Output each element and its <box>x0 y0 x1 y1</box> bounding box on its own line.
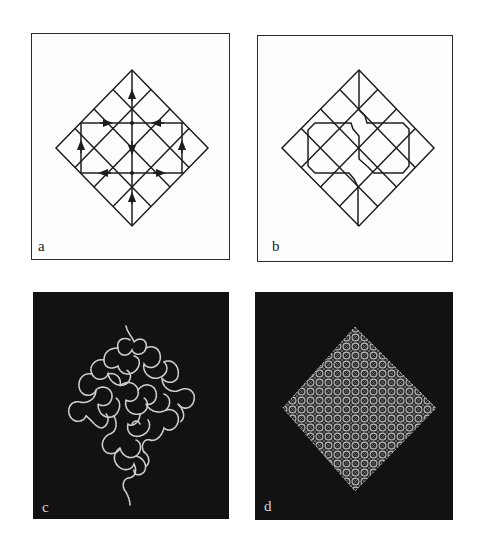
panel-c: c <box>33 292 229 519</box>
meander-curve <box>33 292 229 519</box>
panel-label-c: c <box>42 499 49 516</box>
diamond-grid-arrows <box>32 34 231 261</box>
panel-label-d: d <box>264 498 272 515</box>
panel-label-a: a <box>38 238 45 255</box>
panel-a: a <box>31 33 230 260</box>
panel-d: d <box>255 292 453 520</box>
diamond-grid-path <box>258 36 454 263</box>
woven-diamond <box>255 292 453 520</box>
panel-b: b <box>257 35 453 262</box>
panel-label-b: b <box>272 238 280 255</box>
